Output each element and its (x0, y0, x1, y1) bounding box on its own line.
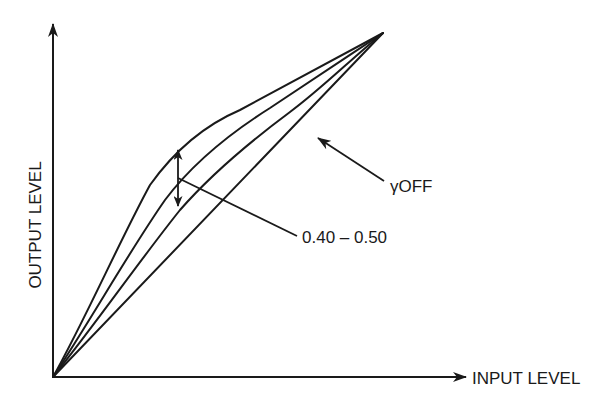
gamma-range-label: 0.40 – 0.50 (302, 228, 387, 247)
gamma-off-line (53, 33, 383, 377)
gamma-curve-figure: OUTPUT LEVEL INPUT LEVEL 0.40 – 0.50 γOF… (0, 0, 600, 406)
gamma-off-pointer-arrow (318, 138, 384, 181)
axes (52, 24, 466, 378)
y-axis-label: OUTPUT LEVEL (26, 161, 45, 288)
x-axis-label: INPUT LEVEL (472, 369, 580, 388)
gamma-curves (53, 33, 383, 377)
gamma-off-label: γOFF (390, 177, 433, 196)
